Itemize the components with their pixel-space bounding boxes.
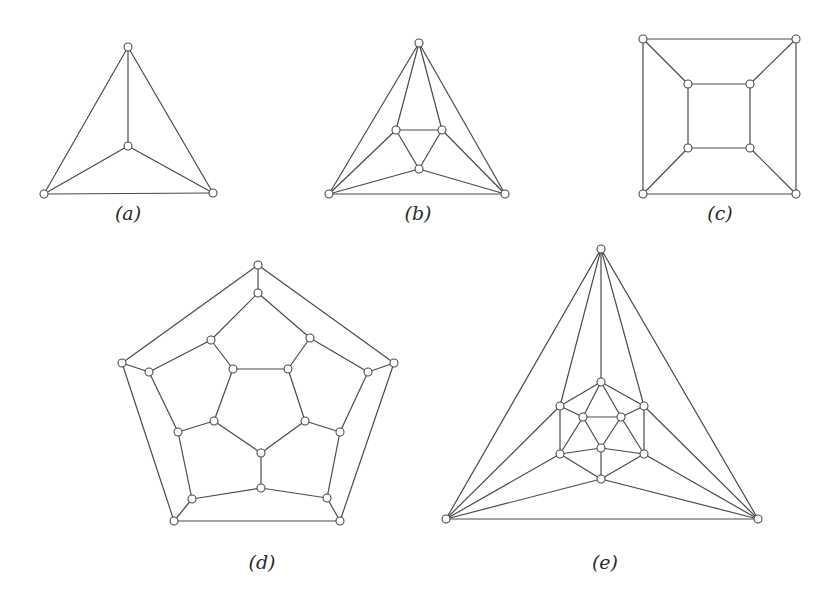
dodecahedron-edge	[192, 488, 261, 499]
dodecahedron-vertex	[390, 359, 398, 367]
dodecahedron-edge	[178, 432, 192, 499]
dodecahedron-edges	[122, 265, 394, 521]
dodecahedron-vertex	[210, 417, 218, 425]
dodecahedron-vertex	[323, 494, 331, 502]
dodecahedron-vertex	[118, 359, 126, 367]
icosahedron-nodes	[442, 245, 762, 523]
dodecahedron-vertex	[188, 495, 196, 503]
dodecahedron-edge	[261, 421, 305, 453]
octahedron-vertex	[392, 126, 400, 134]
icosahedron-edge	[644, 454, 758, 519]
tetrahedron-vertex	[209, 189, 217, 197]
dodecahedron-vertex	[170, 517, 178, 525]
caption-e: (e)	[592, 551, 618, 573]
octahedron-edge	[396, 43, 419, 130]
icosahedron-vertex	[597, 245, 605, 253]
dodecahedron-vertex	[257, 484, 265, 492]
dodecahedron-vertex	[336, 517, 344, 525]
dodecahedron-edge	[340, 363, 394, 521]
icosahedron-edge	[601, 249, 758, 519]
dodecahedron-vertex	[207, 336, 215, 344]
icosahedron-vertex	[442, 515, 450, 523]
icosahedron-vertex	[556, 402, 564, 410]
octahedron-vertex	[438, 126, 446, 134]
dodecahedron-vertex	[284, 365, 292, 373]
octahedron-edge	[329, 43, 419, 194]
octahedron-vertex	[325, 190, 333, 198]
icosahedron-edge	[601, 479, 758, 519]
icosahedron-edge	[560, 448, 601, 454]
dodecahedron-edge	[211, 293, 258, 340]
cube-vertex	[684, 144, 692, 152]
octahedron-edge	[419, 43, 505, 194]
cube-vertex	[639, 35, 647, 43]
dodecahedron-nodes	[118, 261, 398, 525]
tetrahedron-edge	[128, 146, 213, 193]
dodecahedron-vertex	[254, 261, 262, 269]
tetrahedron-edge	[44, 193, 213, 194]
dodecahedron-vertex	[306, 334, 314, 342]
icosahedron-edge	[601, 454, 644, 479]
caption-d: (d)	[249, 551, 276, 573]
dodecahedron-edge	[178, 421, 214, 432]
platonic-graphs-figure: (a) (b) (c) (d) (e)	[0, 0, 833, 612]
octahedron-edge	[419, 43, 442, 130]
caption-c: (c)	[707, 202, 732, 224]
cube-vertex	[684, 80, 692, 88]
tetrahedron-edges	[44, 47, 213, 194]
icosahedron-edge	[560, 249, 601, 406]
dodecahedron-edge	[149, 372, 178, 432]
graph-dodecahedron: (d)	[118, 261, 398, 573]
dodecahedron-edge	[211, 340, 233, 369]
graph-octahedron: (b)	[325, 39, 509, 224]
octahedron-edge	[396, 130, 419, 169]
cube-vertex	[746, 144, 754, 152]
icosahedron-vertex	[640, 402, 648, 410]
icosahedron-edge	[601, 249, 644, 406]
icosahedron-edge	[446, 249, 601, 519]
icosahedron-edge	[446, 479, 601, 519]
dodecahedron-vertex	[364, 368, 372, 376]
cube-vertex	[746, 80, 754, 88]
icosahedron-edge	[446, 454, 560, 519]
dodecahedron-edge	[310, 338, 368, 372]
dodecahedron-edge	[122, 363, 174, 521]
graph-cube: (c)	[639, 35, 800, 224]
icosahedron-vertex	[556, 450, 564, 458]
icosahedron-edge	[583, 417, 601, 448]
dodecahedron-edge	[149, 340, 211, 372]
octahedron-edge	[419, 130, 442, 169]
tetrahedron-vertex	[124, 142, 132, 150]
dodecahedron-edge	[258, 293, 310, 338]
icosahedron-vertex	[640, 450, 648, 458]
icosahedron-vertex	[597, 475, 605, 483]
dodecahedron-vertex	[174, 428, 182, 436]
octahedron-vertex	[415, 39, 423, 47]
dodecahedron-vertex	[257, 449, 265, 457]
dodecahedron-vertex	[145, 368, 153, 376]
graph-tetrahedron: (a)	[40, 43, 217, 224]
dodecahedron-edge	[305, 421, 340, 432]
tetrahedron-edge	[44, 146, 128, 194]
cube-edge	[643, 148, 688, 194]
cube-edge	[750, 148, 796, 194]
tetrahedron-vertex	[124, 43, 132, 51]
tetrahedron-edge	[44, 47, 128, 194]
octahedron-vertex	[501, 190, 509, 198]
dodecahedron-edge	[258, 265, 394, 363]
icosahedron-vertex	[754, 515, 762, 523]
icosahedron-vertex	[597, 444, 605, 452]
dodecahedron-vertex	[254, 289, 262, 297]
caption-a: (a)	[115, 202, 141, 224]
icosahedron-vertex	[597, 378, 605, 386]
icosahedron-vertex	[617, 413, 625, 421]
icosahedron-edge	[601, 417, 621, 448]
cube-edge	[643, 39, 688, 84]
icosahedron-edge	[560, 417, 583, 454]
octahedron-nodes	[325, 39, 509, 198]
dodecahedron-edge	[261, 488, 327, 498]
octahedron-vertex	[415, 165, 423, 173]
cube-edges	[643, 39, 796, 194]
dodecahedron-edge	[214, 369, 233, 421]
icosahedron-vertex	[579, 413, 587, 421]
